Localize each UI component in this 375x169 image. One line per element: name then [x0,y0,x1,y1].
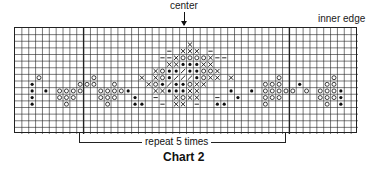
inner-edge-label: inner edge [318,13,365,24]
repeat-label: repeat 5 times [142,136,211,147]
chart-title: Chart 2 [163,150,204,164]
knitting-chart-grid [14,27,357,133]
center-label: center [170,0,198,11]
center-arrow-icon [184,12,185,25]
chart-grid-svg [15,28,358,134]
